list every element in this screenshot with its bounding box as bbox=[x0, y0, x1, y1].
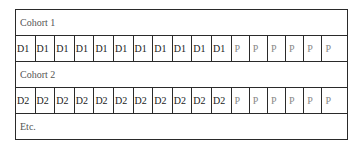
d-cell: D1 bbox=[75, 36, 95, 61]
cohort-cell-row: D2D2D2D2D2D2D2D2D2D2D2PPPPPP bbox=[16, 88, 347, 114]
d-cell: D2 bbox=[173, 88, 193, 113]
d-cell: D1 bbox=[153, 36, 173, 61]
p-cell: P bbox=[286, 36, 304, 61]
d-cell: D2 bbox=[94, 88, 114, 113]
p-cell: P bbox=[322, 88, 340, 113]
d-cell: D2 bbox=[134, 88, 154, 113]
d-cell: D1 bbox=[134, 36, 154, 61]
d-cell: D1 bbox=[114, 36, 134, 61]
cohort-cell-row: D1D1D1D1D1D1D1D1D1D1D1PPPPPP bbox=[16, 36, 347, 62]
d-cell: D2 bbox=[153, 88, 173, 113]
p-cell: P bbox=[250, 36, 268, 61]
cohort-label-row: Cohort 1 bbox=[16, 10, 347, 36]
d-cell: D2 bbox=[212, 88, 232, 113]
p-cell: P bbox=[232, 88, 250, 113]
p-cell: P bbox=[322, 36, 340, 61]
d-cell: D1 bbox=[173, 36, 193, 61]
p-cell: P bbox=[286, 88, 304, 113]
cohort-label-row: Etc. bbox=[16, 114, 347, 139]
d-cell: D1 bbox=[212, 36, 232, 61]
d-cell: D1 bbox=[192, 36, 212, 61]
d-cell: D2 bbox=[75, 88, 95, 113]
p-cell: P bbox=[232, 36, 250, 61]
d-cell: D2 bbox=[16, 88, 36, 113]
p-cell: P bbox=[304, 88, 322, 113]
d-cell: D2 bbox=[55, 88, 75, 113]
p-cell: P bbox=[250, 88, 268, 113]
d-cell: D1 bbox=[94, 36, 114, 61]
d-cell: D1 bbox=[55, 36, 75, 61]
cohort-label-row: Cohort 2 bbox=[16, 62, 347, 88]
d-cell: D1 bbox=[36, 36, 56, 61]
p-cell: P bbox=[268, 88, 286, 113]
cohort-diagram: Cohort 1D1D1D1D1D1D1D1D1D1D1D1PPPPPPCoho… bbox=[15, 9, 348, 140]
d-cell: D2 bbox=[192, 88, 212, 113]
d-cell: D1 bbox=[16, 36, 36, 61]
d-cell: D2 bbox=[36, 88, 56, 113]
d-cell: D2 bbox=[114, 88, 134, 113]
p-cell: P bbox=[268, 36, 286, 61]
p-cell: P bbox=[304, 36, 322, 61]
